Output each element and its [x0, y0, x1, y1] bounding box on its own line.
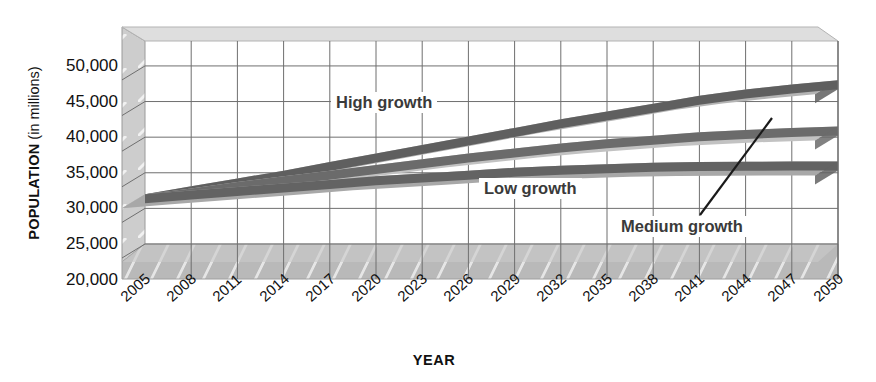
x-axis-tick-label: 2017	[302, 270, 338, 305]
x-axis-tick-label: 2032	[533, 270, 569, 305]
x-axis-title-text: YEAR	[413, 352, 456, 368]
x-axis-tick-label: 2020	[348, 270, 384, 305]
x-axis-tick-label: 2050	[810, 270, 846, 305]
x-axis-tick-label: 2047	[764, 270, 800, 305]
x-axis-tick-label: 2008	[163, 270, 199, 305]
x-axis-tick-label: 2014	[256, 270, 292, 305]
x-axis-tick-label: 2044	[718, 270, 754, 305]
x-axis-tick-label: 2026	[440, 270, 476, 305]
x-axis-title: YEAR	[0, 352, 876, 368]
x-axis-tick-label: 2023	[394, 270, 430, 305]
chart-figure: POPULATION (in millions) 50,00045,00040,…	[0, 0, 876, 382]
x-axis-tick-label: 2005	[117, 270, 153, 305]
x-axis-tick-label: 2011	[209, 270, 244, 304]
x-axis-tick-label: 2029	[487, 270, 523, 305]
x-axis-tick-labels: 2005200820112014201720202023202620292032…	[0, 0, 876, 382]
x-axis-tick-label: 2038	[625, 270, 661, 305]
x-axis-tick-label: 2041	[671, 270, 707, 305]
x-axis-tick-label: 2035	[579, 270, 615, 305]
